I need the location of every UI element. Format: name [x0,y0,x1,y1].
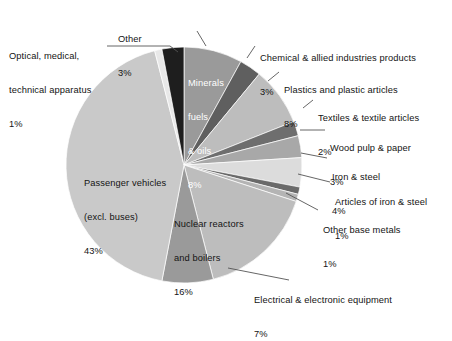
label-electrical-name: Electrical & electronic equipment [254,295,392,306]
label-electrical: Electrical & electronic equipment 7% [254,272,392,341]
label-minerals-line3: & oils [188,146,224,157]
label-minerals: Minerals fuels & oils 8% [188,55,224,215]
label-other: Other 3% [118,11,142,102]
label-optical: Optical, medical, technical apparatus 1% [9,28,91,153]
label-other-pct: 3% [118,68,142,79]
label-electrical-pct: 7% [254,329,392,340]
leader-line-other [197,31,206,46]
label-passenger-vehicles: Passenger vehicles (excl. buses) 43% [84,155,166,280]
label-other-name: Other [118,34,142,45]
leader-line-chemical [247,46,255,58]
label-passenger-pct: 43% [84,246,166,257]
label-nuclear-pct: 16% [174,287,244,298]
label-nuclear-line1: Nuclear reactors [174,219,244,230]
label-passenger-line2: (excl. buses) [84,212,166,223]
label-basemetals-pct: 1% [323,259,401,270]
label-passenger-line1: Passenger vehicles [84,178,166,189]
label-optical-pct: 1% [9,119,91,130]
label-nuclear-line2: and boilers [174,253,244,264]
label-basemetals-name: Other base metals [323,225,401,236]
label-optical-line2: technical apparatus [9,85,91,96]
label-minerals-line1: Minerals [188,78,224,89]
label-nuclear-reactors: Nuclear reactors and boilers 16% [174,196,244,321]
label-optical-line1: Optical, medical, [9,51,91,62]
label-minerals-line2: fuels [188,112,224,123]
label-minerals-pct: 8% [188,180,224,191]
